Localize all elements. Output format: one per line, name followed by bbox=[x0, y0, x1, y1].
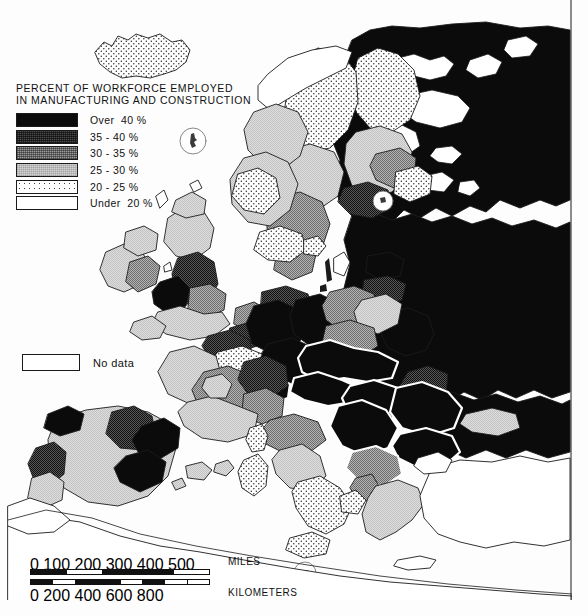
legend-row-30-35: 30 - 35 % bbox=[16, 145, 256, 162]
scale-seg-miles-4 bbox=[138, 570, 174, 574]
scale-seg-km-2 bbox=[53, 580, 75, 584]
legend-swatch-25-30 bbox=[16, 163, 78, 177]
legend-swatch-35-40 bbox=[16, 130, 78, 144]
thematic-map-figure: PERCENT OF WORKFORCE EMPLOYED IN MANUFAC… bbox=[0, 0, 588, 616]
legend-label-20-25: 20 - 25 % bbox=[90, 181, 139, 193]
legend-swatch-under20 bbox=[16, 196, 78, 210]
legend-row-20-25: 20 - 25 % bbox=[16, 178, 256, 195]
legend-swatch-over40 bbox=[16, 113, 78, 127]
scale-km-tick-800: 800 bbox=[137, 587, 164, 604]
scale-seg-miles-3 bbox=[103, 570, 139, 574]
scale-km-tick-200: 200 bbox=[43, 587, 70, 604]
scale-bar-miles bbox=[30, 569, 210, 575]
legend-label-25-30: 25 - 30 % bbox=[90, 164, 139, 176]
scale-km-unit: KILOMETERS bbox=[228, 587, 297, 598]
scale-km-tick-400: 400 bbox=[75, 587, 102, 604]
legend-swatch-20-25 bbox=[16, 180, 78, 194]
legend-label-nodata: No data bbox=[93, 357, 134, 369]
scale-km-ticks: 0 200 400 600 800 KILOMETERS bbox=[30, 587, 290, 599]
legend-row-over40: Over 40 % bbox=[16, 112, 256, 129]
scale-seg-km-8 bbox=[188, 580, 209, 584]
scale-seg-km-5 bbox=[121, 580, 143, 584]
legend-label-30-35: 30 - 35 % bbox=[90, 147, 139, 159]
scale-miles-ticks: 0 100 200 300 400 500 MILES bbox=[30, 556, 290, 568]
scale-seg-km-7 bbox=[165, 580, 187, 584]
scale-seg-miles-5 bbox=[174, 570, 209, 574]
legend-title: PERCENT OF WORKFORCE EMPLOYED IN MANUFAC… bbox=[16, 83, 256, 106]
scale-seg-miles-1 bbox=[31, 570, 67, 574]
legend-swatch-30-35 bbox=[16, 146, 78, 160]
scale-seg-km-1 bbox=[31, 580, 53, 584]
legend-nodata: No data bbox=[22, 354, 134, 371]
scale-seg-miles-2 bbox=[67, 570, 103, 574]
legend-row-25-30: 25 - 30 % bbox=[16, 162, 256, 179]
scale-bar-kilometers bbox=[30, 579, 210, 585]
island-aland bbox=[380, 197, 386, 203]
legend-label-over40: Over 40 % bbox=[90, 114, 147, 126]
scale-miles-unit: MILES bbox=[228, 556, 261, 567]
legend-row-under20: Under 20 % bbox=[16, 195, 256, 212]
scale-seg-km-6 bbox=[143, 580, 165, 584]
scale-seg-km-4 bbox=[98, 580, 120, 584]
scale-seg-km-3 bbox=[76, 580, 98, 584]
legend-class-list: Over 40 % 35 - 40 % 30 - 35 % 25 - 30 % … bbox=[16, 112, 256, 212]
legend-label-under20: Under 20 % bbox=[90, 197, 153, 209]
map-legend: PERCENT OF WORKFORCE EMPLOYED IN MANUFAC… bbox=[16, 83, 256, 212]
map-scale-bars: 0 100 200 300 400 500 MILES 0 bbox=[30, 556, 290, 599]
scale-km-tick-600: 600 bbox=[106, 587, 133, 604]
scale-km-tick-0: 0 bbox=[30, 587, 39, 604]
legend-label-35-40: 35 - 40 % bbox=[90, 131, 139, 143]
legend-row-35-40: 35 - 40 % bbox=[16, 129, 256, 146]
legend-swatch-nodata bbox=[22, 354, 80, 371]
